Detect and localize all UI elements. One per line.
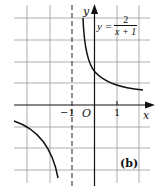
graph-figure: y y = 2 x + 1 −1 O 1 x (b) <box>0 0 157 195</box>
equation-lhs: y = <box>97 20 112 32</box>
origin-label: O <box>82 108 91 119</box>
curve-left-branch <box>14 121 58 178</box>
equation-denominator: x + 1 <box>114 25 137 37</box>
equation-label: y = 2 x + 1 <box>97 14 137 37</box>
x-axis-label: x <box>143 110 149 121</box>
tick-label-neg-one: −1 <box>60 108 75 118</box>
y-axis-label: y <box>83 6 89 17</box>
tick-label-one: 1 <box>114 108 120 118</box>
equation-fraction: 2 x + 1 <box>114 14 137 37</box>
y-axis-arrow-icon <box>91 4 98 14</box>
equation-numerator: 2 <box>123 14 128 25</box>
x-axis-arrow-icon <box>145 102 155 109</box>
figure-label: (b) <box>120 158 138 169</box>
